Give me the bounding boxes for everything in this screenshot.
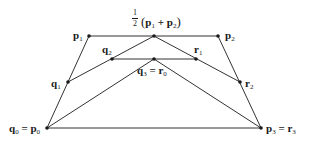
label-q3-r0: q3 = r0	[137, 65, 167, 78]
label-r2: r2	[245, 78, 253, 91]
label-q1: q1	[51, 78, 61, 91]
label-q2: q2	[102, 44, 112, 57]
point-r2	[238, 80, 242, 84]
point-r1	[194, 57, 198, 61]
midpoint-fraction: 1 2	[132, 9, 138, 28]
point-p3	[259, 126, 263, 130]
label-q0-p0: q0 = p0	[9, 123, 40, 136]
label-p1: p1	[73, 30, 83, 43]
fraction-numerator: 1	[132, 9, 138, 19]
label-r1: r1	[194, 44, 202, 57]
label-midpoint: (p1 + p2)	[141, 15, 181, 30]
label-p2: p2	[225, 30, 235, 43]
bezier-subdivision-diagram: 1 2 (p1 + p2) p1 p2 q2 r1 q1 r2 q3 = r0 …	[0, 0, 310, 141]
fraction-denominator: 2	[132, 19, 138, 28]
point-midpoint	[152, 34, 156, 38]
point-p0	[45, 126, 49, 130]
point-q2	[110, 57, 114, 61]
point-p2	[216, 34, 220, 38]
point-q3	[152, 57, 156, 61]
point-q1	[66, 80, 70, 84]
point-p1	[87, 34, 91, 38]
label-p3-r3: p3 = r3	[266, 123, 296, 136]
